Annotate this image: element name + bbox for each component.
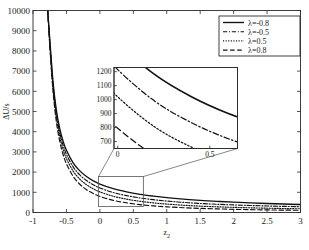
y-tick-label: 10000: [8, 6, 31, 16]
legend-label-1: λ=-0.5: [248, 28, 269, 37]
inset-x-tick-label: 0: [116, 150, 120, 159]
legend-label-0: λ=-0.8: [248, 19, 269, 28]
inset-x-tick-label: 0.5: [205, 150, 215, 159]
x-tick-label: 1.5: [195, 216, 207, 226]
y-tick-label: 7000: [12, 66, 31, 76]
y-tick-label: 9000: [12, 26, 31, 36]
legend-label-2: λ=0.5: [248, 37, 266, 46]
x-tick-label: 3: [298, 216, 303, 226]
y-tick-label: 0: [26, 208, 31, 218]
x-tick-label: -1: [29, 216, 37, 226]
y-tick-label: 4000: [12, 127, 31, 137]
x-axis-label: z2: [163, 228, 170, 239]
y-tick-label: 8000: [12, 46, 31, 56]
inset-y-tick-label: 800: [100, 123, 112, 132]
inset-y-tick-label: 700: [100, 137, 112, 146]
y-tick-label: 6000: [12, 87, 31, 97]
inset-y-tick-label: 900: [100, 109, 112, 118]
x-tick-label: 2: [231, 216, 236, 226]
legend-label-3: λ=0.8: [248, 46, 266, 55]
x-tick-label: -0.5: [59, 216, 74, 226]
inset-y-tick-label: 1200: [97, 67, 112, 76]
x-tick-label: 2.5: [261, 216, 273, 226]
line-chart: -1-0.500.511.522.53010002000300040005000…: [0, 0, 309, 250]
legend: λ=-0.8λ=-0.5λ=0.5λ=0.8: [219, 16, 300, 56]
y-tick-label: 3000: [12, 147, 31, 157]
inset-y-tick-label: 1100: [97, 81, 112, 90]
chart-figure: -1-0.500.511.522.53010002000300040005000…: [0, 0, 309, 250]
y-axis-label: ΔU/s: [2, 103, 11, 119]
x-tick-label: 0: [98, 216, 103, 226]
x-tick-label: 0.5: [128, 216, 140, 226]
y-tick-label: 2000: [12, 167, 31, 177]
y-tick-label: 1000: [12, 188, 31, 198]
y-tick-label: 5000: [12, 107, 31, 117]
x-tick-label: 1: [165, 216, 170, 226]
inset-background: [114, 68, 238, 149]
inset-y-tick-label: 1000: [97, 95, 112, 104]
